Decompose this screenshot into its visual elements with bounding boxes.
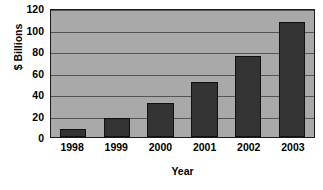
bar-series (51, 10, 314, 137)
y-axis-tick-label: 20 (8, 111, 44, 122)
x-axis-tick-labels: 199819992000200120022003 (50, 142, 315, 153)
y-axis-tick-label: 120 (8, 4, 44, 15)
bar-slot (226, 10, 270, 137)
y-axis-tick-label: 0 (8, 133, 44, 144)
x-axis-tick-label: 2001 (183, 142, 227, 153)
plot-area (50, 9, 315, 138)
bar[interactable] (191, 82, 217, 137)
bar-slot (51, 10, 95, 137)
x-axis-tick-label: 2002 (227, 142, 271, 153)
bar-slot (95, 10, 139, 137)
y-axis-tick-label: 60 (8, 68, 44, 79)
bar-slot (182, 10, 226, 137)
bar-chart: $ Billions 020406080100120 1998199920002… (0, 0, 323, 190)
bar[interactable] (235, 56, 261, 137)
bar-slot (270, 10, 314, 137)
bar-slot (139, 10, 183, 137)
bar[interactable] (147, 103, 173, 137)
bar[interactable] (104, 118, 130, 137)
bar[interactable] (279, 22, 305, 137)
x-axis-tick-label: 2000 (138, 142, 182, 153)
y-axis-tick-label: 100 (8, 25, 44, 36)
x-axis-tick-label: 2003 (271, 142, 315, 153)
x-axis-tick-label: 1998 (50, 142, 94, 153)
x-axis-title: Year (50, 166, 315, 177)
y-axis-tick-label: 80 (8, 47, 44, 58)
y-axis-tick-label: 40 (8, 90, 44, 101)
x-axis-tick-label: 1999 (94, 142, 138, 153)
bar[interactable] (60, 129, 86, 137)
y-axis-tick-labels: 020406080100120 (8, 9, 44, 138)
